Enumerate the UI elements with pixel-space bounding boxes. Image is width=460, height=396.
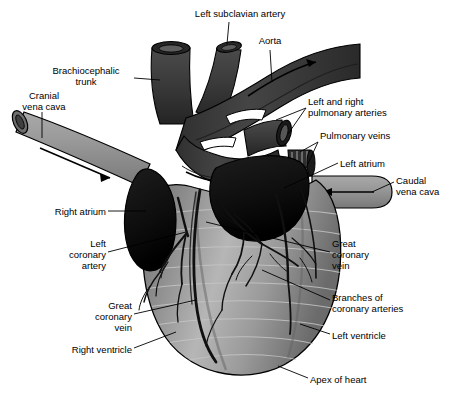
label-left-atrium: Left atrium	[340, 158, 430, 169]
heart-anatomy-diagram: Left subclavian artery Aorta Brachioceph…	[0, 0, 460, 396]
label-aorta: Aorta	[245, 35, 295, 46]
leader-left-subclavian-artery	[227, 22, 229, 44]
label-great-coronary-vein-right: Great coronary vein	[332, 238, 412, 271]
label-caudal-vena-cava: Caudal vena cava	[396, 175, 460, 197]
brachiocephalic-trunk-shape	[151, 42, 194, 125]
label-right-atrium: Right atrium	[24, 206, 106, 217]
label-pulmonary-veins: Pulmonary veins	[320, 130, 440, 141]
label-branches-of-coronary-arteries: Branches of coronary arteries	[332, 292, 452, 314]
label-apex-of-heart: Apex of heart	[310, 374, 410, 385]
label-brachiocephalic-trunk: Brachiocephalic trunk	[40, 65, 132, 87]
label-right-ventricle: Right ventricle	[40, 344, 132, 355]
label-left-coronary-artery: Left coronary artery	[36, 238, 106, 271]
label-left-and-right-pulmonary-arteries: Left and right pulmonary arteries	[308, 96, 438, 118]
label-left-ventricle: Left ventricle	[332, 330, 432, 341]
cranial-vena-cava-shape	[9, 108, 150, 186]
label-great-coronary-vein-left: Great coronary vein	[62, 300, 132, 333]
label-cranial-vena-cava: Cranial vena cava	[10, 90, 78, 112]
label-left-subclavian-artery: Left subclavian artery	[180, 8, 300, 19]
leader-apex-of-heart	[278, 366, 308, 378]
